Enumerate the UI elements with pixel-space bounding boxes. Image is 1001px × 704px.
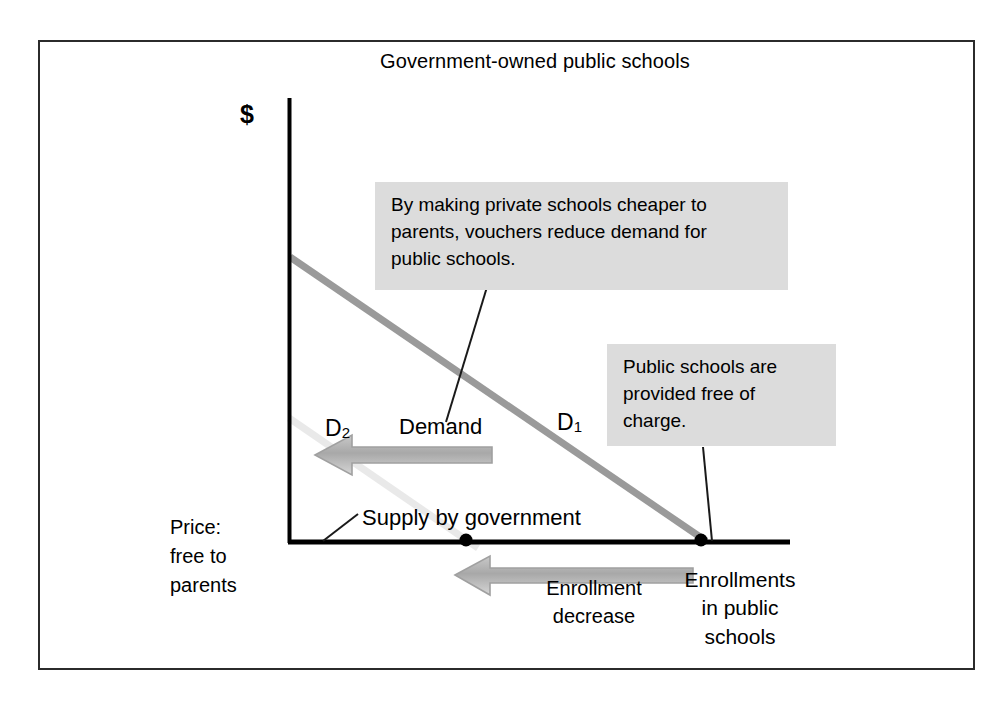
demand-shift-label: Demand (399, 414, 482, 440)
callout-free-charge: Public schools are provided free of char… (607, 344, 836, 446)
x-axis-label-line-1: Enrollments (665, 566, 815, 594)
price-axis-note-line-1: Price: (170, 513, 280, 542)
callout-free-charge-line-1: Public schools are (623, 354, 822, 381)
leader-line-vouchers (446, 287, 487, 422)
x-axis-label-line-2: in public (665, 594, 815, 622)
figure-page: Government-owned public schools $ By mak… (0, 0, 1001, 704)
enrollment-decrease-line-1: Enrollment (529, 574, 659, 602)
chart-title: Government-owned public schools (380, 50, 690, 74)
leader-line-free-charge (703, 447, 712, 541)
x-axis-label-line-3: schools (665, 623, 815, 651)
curve-label-d2: D2 (325, 415, 350, 442)
curve-label-d2-letter: D (325, 415, 342, 441)
callout-vouchers-line-3: public schools. (391, 246, 774, 273)
price-axis-note-line-3: parents (170, 571, 280, 600)
callout-vouchers-line-2: parents, vouchers reduce demand for (391, 219, 774, 246)
callout-free-charge-line-3: charge. (623, 408, 822, 435)
callout-vouchers-line-1: By making private schools cheaper to (391, 192, 774, 219)
x-axis-label: Enrollments in public schools (665, 566, 815, 651)
equilibrium-dot-d1 (695, 534, 708, 547)
price-axis-note: Price: free to parents (170, 513, 280, 600)
supply-curve-label: Supply by government (362, 505, 581, 531)
callout-vouchers: By making private schools cheaper to par… (375, 182, 788, 290)
enrollment-decrease-label: Enrollment decrease (529, 574, 659, 630)
equilibrium-dot-d2 (460, 534, 473, 547)
callout-free-charge-line-2: provided free of (623, 381, 822, 408)
enrollment-decrease-line-2: decrease (529, 602, 659, 630)
curve-label-d2-subscript: 2 (342, 424, 350, 441)
y-axis-dollar-label: $ (240, 100, 254, 130)
curve-label-d1-letter: D (557, 409, 574, 435)
curve-label-d1: D1 (557, 409, 582, 436)
leader-line-supply (323, 514, 358, 541)
price-axis-note-line-2: free to (170, 542, 280, 571)
economics-diagram (0, 0, 1001, 704)
curve-label-d1-subscript: 1 (574, 418, 582, 435)
